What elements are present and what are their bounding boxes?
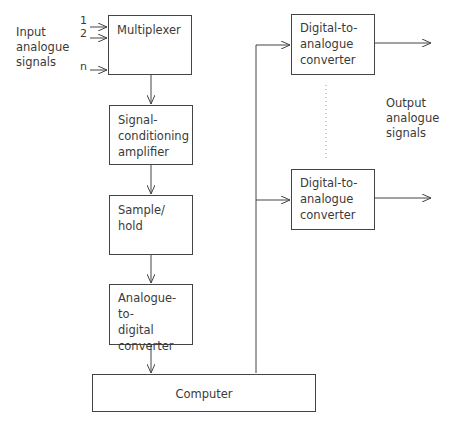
channel-2-label: 2: [80, 27, 87, 40]
adc-block: Analogue-to- digital converter: [109, 284, 193, 345]
output-signals-label: Output analogue signals: [386, 96, 439, 141]
amplifier-block: Signal- conditioning amplifier: [109, 105, 193, 165]
sample-hold-block: Sample/ hold: [109, 195, 193, 255]
channel-1-label: 1: [80, 14, 87, 27]
channel-n-label: n: [80, 60, 87, 73]
multiplexer-block: Multiplexer: [108, 15, 192, 75]
dac-block-1: Digital-to- analogue converter: [291, 14, 375, 75]
input-signals-label: Input analogue signals: [16, 25, 69, 70]
computer-block: Computer: [92, 374, 316, 412]
dac-block-2: Digital-to- analogue converter: [291, 169, 375, 230]
